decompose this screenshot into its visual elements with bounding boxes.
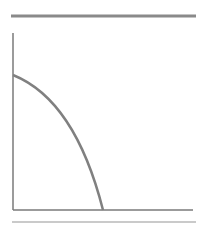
diagram-canvas xyxy=(0,0,207,227)
curve xyxy=(13,75,103,210)
